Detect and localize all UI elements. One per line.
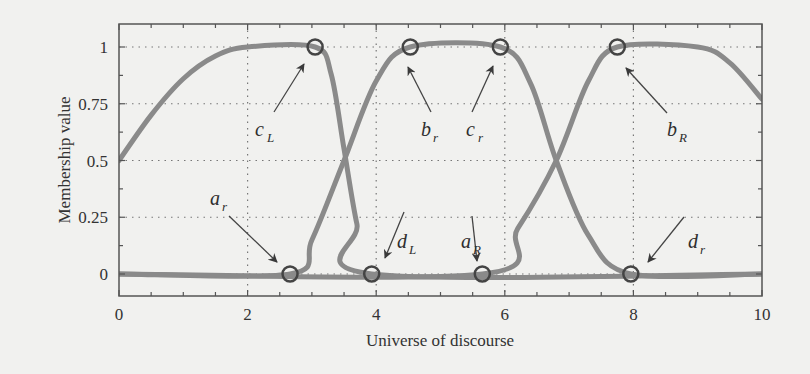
x-tick-label: 0: [115, 305, 124, 324]
arrow-cL: [274, 64, 304, 112]
x-tick-label: 4: [372, 305, 381, 324]
x-tick-label: 2: [243, 305, 252, 324]
label-br: b: [421, 118, 431, 140]
arrow-cr: [472, 66, 493, 112]
grid-lines: [119, 24, 762, 296]
arrow-dr: [648, 217, 684, 262]
label-cL: c: [255, 118, 264, 140]
y-tick-labels: 00.250.50.751: [78, 38, 108, 284]
label-sub-bR: R: [678, 130, 687, 145]
label-sub-cL: L: [266, 130, 274, 145]
y-axis-title: Membership value: [55, 97, 74, 224]
y-tick-label: 0.5: [87, 152, 108, 171]
parameter-annotations: cLbrcrbRardLaRdr: [210, 64, 706, 262]
label-bR: b: [667, 118, 677, 140]
y-tick-label: 1: [100, 38, 109, 57]
arrow-ar: [229, 216, 277, 262]
y-tick-label: 0: [100, 265, 109, 284]
label-sub-ar: r: [222, 199, 228, 214]
label-ar: a: [210, 187, 220, 209]
arrow-bR: [626, 68, 667, 113]
curve-left-shoulder: [119, 45, 762, 278]
label-sub-aR: R: [472, 242, 481, 257]
arrow-br: [408, 67, 431, 112]
label-aR: a: [461, 230, 471, 252]
label-sub-cr: r: [478, 130, 484, 145]
x-tick-label: 6: [501, 305, 510, 324]
label-sub-br: r: [433, 130, 439, 145]
y-tick-label: 0.75: [78, 95, 108, 114]
curve-middle: [119, 43, 762, 277]
label-sub-dL: L: [408, 242, 416, 257]
y-tick-label: 0.25: [78, 208, 108, 227]
label-dL: d: [397, 230, 408, 252]
x-tick-label: 8: [629, 305, 638, 324]
x-axis-title: Universe of discourse: [366, 331, 514, 350]
x-tick-label: 10: [754, 305, 771, 324]
label-dr: d: [688, 230, 699, 252]
label-sub-dr: r: [700, 242, 706, 257]
label-cr: c: [466, 118, 475, 140]
x-tick-labels: 0246810: [115, 305, 771, 324]
membership-function-chart: 0246810 00.250.50.751 Universe of discou…: [0, 0, 810, 374]
